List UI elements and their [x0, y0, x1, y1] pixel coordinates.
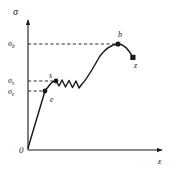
- y-tick-label-sigma-s: σs: [8, 77, 14, 85]
- point-marker-z: [130, 55, 135, 60]
- sigma-b-subscript: b: [12, 43, 15, 49]
- curve-point-label-s: s: [49, 72, 52, 80]
- y-tick-label-sigma-e: σe: [8, 88, 14, 96]
- y-tick-label-sigma-b: σb: [8, 40, 15, 48]
- sigma-s-subscript: s: [12, 80, 14, 86]
- origin-label: 0: [19, 146, 24, 155]
- point-marker-b: [115, 41, 120, 46]
- stress-strain-figure: σ ε 0 σb σs σe s e b z: [0, 0, 176, 181]
- stress-strain-curve: [28, 44, 133, 148]
- curve-point-label-e: e: [50, 96, 54, 104]
- point-marker-e: [43, 89, 48, 94]
- curve-point-label-z: z: [134, 62, 137, 70]
- y-axis-title: σ: [13, 7, 18, 17]
- x-axis-title: ε: [158, 157, 162, 166]
- plot-canvas: [0, 0, 176, 181]
- curve-point-label-b: b: [118, 31, 122, 39]
- point-marker-s: [54, 79, 59, 84]
